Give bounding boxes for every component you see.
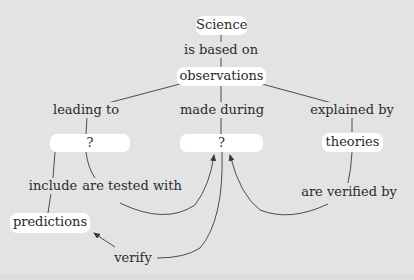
link-label-include: include (27, 178, 79, 194)
node-unknown-middle: ? (180, 134, 263, 152)
node-unknown-left: ? (50, 134, 130, 152)
node-predictions: predictions (10, 213, 90, 233)
link-label-are-verified-by: are verified by (299, 184, 399, 200)
link-label-made-during: made during (178, 102, 266, 118)
node-science: Science (196, 16, 247, 35)
link-label-are-tested-with: are tested with (80, 178, 184, 194)
link-label-is-based-on: is based on (182, 42, 260, 58)
link-label-verify: verify (112, 250, 154, 266)
link-label-leading-to: leading to (51, 102, 121, 118)
link-label-explained-by: explained by (308, 102, 396, 118)
node-observations: observations (177, 67, 266, 86)
node-theories: theories (322, 133, 383, 152)
